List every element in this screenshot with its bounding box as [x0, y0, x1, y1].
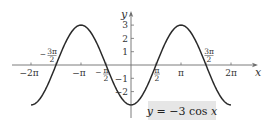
equation-text: y = −3 cos x [146, 105, 218, 118]
x-tick-label: π2 [154, 66, 160, 83]
x-tick-label: 2π [225, 68, 237, 78]
y-tick-label: −2 [115, 87, 128, 97]
y-axis-label: y [120, 8, 128, 21]
x-axis-label: x [255, 66, 262, 79]
y-tick-label: 1 [122, 47, 128, 57]
x-tick-label: −π2 [95, 66, 109, 83]
x-tick-label: −2π [19, 68, 38, 78]
y-tick-label: 2 [122, 34, 128, 44]
x-annotation-label: 3π2 [204, 47, 214, 64]
svg-text:2: 2 [155, 74, 160, 83]
x-tick-label: π [178, 68, 184, 78]
svg-text:−: − [40, 50, 46, 59]
svg-text:2: 2 [50, 55, 55, 64]
y-tick-label: 3 [122, 20, 128, 30]
equation-label: y = −3 cos x [146, 101, 218, 120]
svg-text:2: 2 [207, 55, 212, 64]
tick-labels: −2π−π−π2π2π2π−3π23π2321−1−2 [19, 20, 236, 97]
x-tick-label: −π [72, 68, 86, 78]
x-annotation-label: −3π2 [40, 47, 57, 64]
svg-text:2: 2 [104, 74, 109, 83]
y-tick-label: −1 [115, 74, 128, 84]
svg-text:−: − [95, 68, 101, 77]
cosine-graph: xy −2π−π−π2π2π2π−3π23π2321−1−2 y = −3 co… [0, 0, 272, 125]
